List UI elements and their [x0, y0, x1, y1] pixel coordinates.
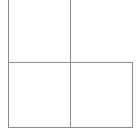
cell-bottom-right: [70, 62, 132, 127]
right-vertical-line: [132, 62, 133, 128]
left-vertical-line: [8, 0, 9, 128]
grid-diagram: [0, 0, 140, 138]
cell-bottom-left: [8, 62, 70, 127]
middle-horizontal-line: [8, 62, 133, 63]
bottom-horizontal-line: [8, 127, 133, 128]
cell-top-left: [8, 0, 70, 62]
middle-vertical-line: [70, 0, 71, 128]
